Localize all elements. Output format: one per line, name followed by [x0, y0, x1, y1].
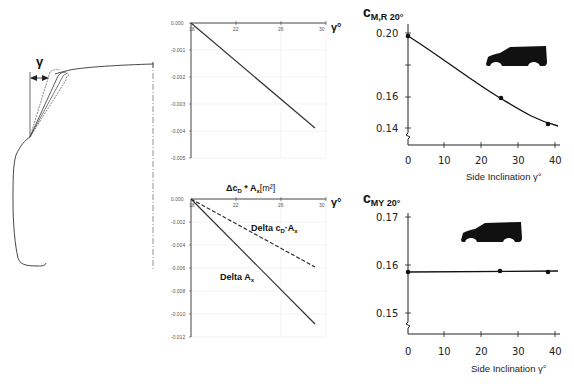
y-tick: -0.006: [171, 265, 185, 271]
x-tick: 18: [189, 202, 195, 208]
delta-cd-chart: 18 22 26 30 0.000 -0.001 -0.002 -0.003 -…: [171, 20, 342, 161]
chart-title: cM,R 20°: [363, 4, 404, 22]
y-tick: -0.002: [171, 219, 185, 225]
figure: γ 18 22 26: [0, 0, 574, 384]
y-tick: -0.003: [171, 101, 185, 107]
x-axis-label: Side Inclination γ°: [466, 171, 542, 182]
annotation-delta-ax: Delta Ax: [220, 272, 255, 283]
x-tick: 0: [405, 346, 411, 357]
chart-title: cMY 20°: [363, 190, 401, 208]
delta-cdax-chart: ΔcD * Ax[m²] 18 22 26 30 0.000: [171, 183, 342, 340]
x-axis-label: Side Inclination γ°: [471, 363, 547, 374]
y-tick: 0.20: [376, 28, 398, 39]
y-tick: -0.012: [171, 334, 185, 340]
series-delta-ax: [191, 199, 315, 324]
y-tick: 0.000: [171, 20, 184, 26]
x-tick: 20: [475, 155, 488, 166]
annotation-delta-cdax: Delta cD·Ax: [251, 223, 298, 234]
x-tick: 40: [549, 155, 562, 166]
x-axis-label: γ°: [331, 21, 342, 33]
x-tick: 0: [405, 155, 411, 166]
x-tick: 30: [319, 202, 325, 208]
y-tick: 0.16: [376, 91, 398, 102]
y-tick: 0.15: [376, 308, 398, 319]
car-silhouette-icon: [486, 46, 547, 66]
y-tick: -0.010: [171, 311, 185, 317]
x-tick: 40: [549, 346, 562, 357]
chart-title: ΔcD * Ax[m²]: [226, 183, 275, 194]
series-cmy: [408, 271, 558, 272]
vehicle-profile-diagram: γ: [13, 54, 153, 270]
x-tick: 30: [319, 26, 325, 32]
x-tick: 22: [233, 26, 239, 32]
y-tick: 0.17: [376, 212, 398, 223]
x-tick: 10: [438, 346, 451, 357]
car-silhouette-icon: [461, 222, 522, 242]
y-tick: -0.001: [171, 47, 185, 53]
y-tick: -0.002: [171, 74, 185, 80]
y-tick: 0.000: [171, 196, 184, 202]
x-tick: 18: [189, 26, 195, 32]
y-tick: -0.005: [171, 155, 185, 161]
x-tick: 30: [512, 346, 525, 357]
gamma-label: γ: [36, 54, 44, 69]
x-tick: 30: [512, 155, 525, 166]
y-tick: -0.008: [171, 288, 185, 294]
series-delta: [191, 23, 315, 128]
y-tick: 0.16: [376, 260, 398, 271]
x-tick: 26: [278, 26, 284, 32]
x-axis-label: γ°: [331, 196, 342, 208]
x-tick: 26: [278, 202, 284, 208]
y-tick: -0.004: [171, 128, 185, 134]
y-tick: 0.14: [376, 123, 398, 134]
x-tick: 22: [233, 202, 239, 208]
x-tick: 20: [475, 346, 488, 357]
cmy-chart: cMY 20° 0.17 0.16 0.15 0 10 20 30 40 Sid…: [363, 190, 562, 374]
cmr-chart: cM,R 20° 0.20 0.16 0.14 0 10 20 30 40 Si…: [363, 4, 562, 182]
y-tick: -0.004: [171, 242, 185, 248]
x-tick: 10: [438, 155, 451, 166]
